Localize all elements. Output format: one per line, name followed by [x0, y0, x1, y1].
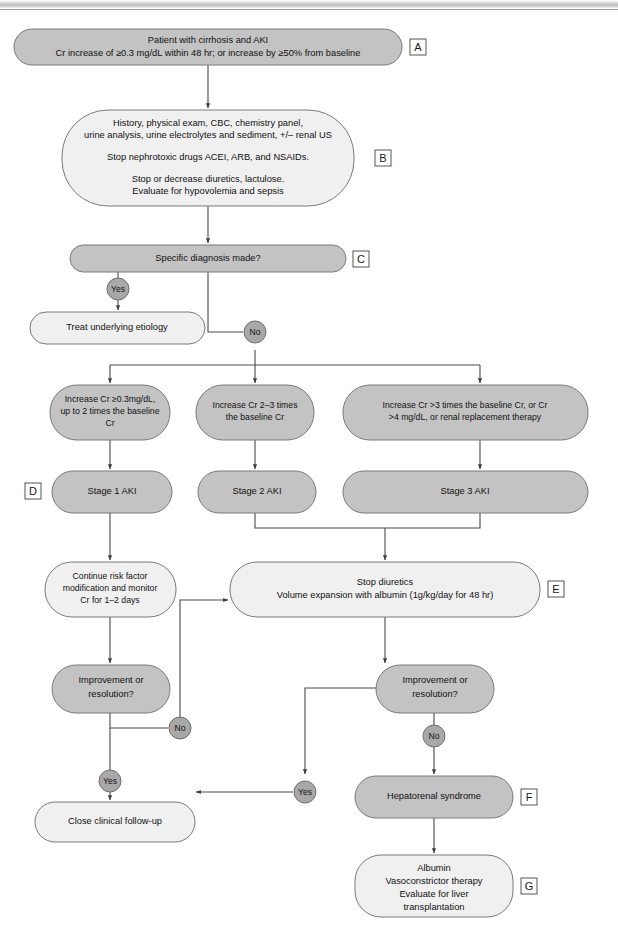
node-continue-risk-line-1: Continue risk factor — [73, 571, 148, 581]
node-close-followup-text: Close clinical follow-up — [68, 816, 162, 826]
node-stage-2-text: Stage 2 AKI — [232, 486, 281, 496]
decision-left-no-text: No — [175, 723, 186, 733]
decision-right-yes[interactable]: Yes — [294, 781, 316, 803]
label-e-text: E — [552, 583, 559, 595]
node-a[interactable]: Patient with cirrhosis and AKI Cr increa… — [14, 29, 402, 65]
node-treat-etiology[interactable]: Treat underlying etiology — [30, 312, 205, 344]
decision-left-yes[interactable]: Yes — [99, 770, 121, 792]
label-b: B — [375, 150, 391, 166]
node-b-line-2: urine analysis, urine electrolytes and s… — [84, 130, 332, 140]
label-a-text: A — [414, 41, 422, 53]
node-treatment-line-2: Vasoconstrictor therapy — [386, 876, 483, 886]
node-stage-3[interactable]: Stage 3 AKI — [343, 471, 588, 513]
node-criteria-2-line-1: Increase Cr 2–3 times — [213, 400, 299, 410]
label-d: D — [25, 483, 41, 499]
node-b-line-4: Stop or decrease diuretics, lactulose. — [132, 174, 284, 184]
label-f: F — [521, 789, 537, 805]
node-a-shape — [14, 29, 402, 65]
connector-c-to-no — [208, 272, 243, 332]
node-improvement-left-line-1: Improvement or — [78, 675, 143, 685]
node-b-line-3: Stop nephrotoxic drugs ACEI, ARB, and NS… — [107, 152, 309, 162]
label-a: A — [410, 39, 426, 55]
connector-no-to-bus — [110, 350, 255, 365]
node-c[interactable]: Specific diagnosis made? — [70, 245, 346, 272]
node-treat-etiology-text: Treat underlying etiology — [66, 322, 168, 332]
node-b-line-1: History, physical exam, CBC, chemistry p… — [113, 118, 303, 128]
decision-right-no-text: No — [429, 731, 440, 741]
label-g-text: G — [525, 880, 534, 892]
node-a-line-2: Cr increase of ≥0.3 mg/dL within 48 hr; … — [56, 48, 361, 58]
node-criteria-3[interactable]: Increase Cr >3 times the baseline Cr, or… — [343, 385, 588, 440]
node-continue-risk[interactable]: Continue risk factor modification and mo… — [45, 562, 176, 617]
flowchart-page: Patient with cirrhosis and AKI Cr increa… — [0, 0, 618, 937]
flowchart-canvas: Patient with cirrhosis and AKI Cr increa… — [0, 0, 618, 937]
node-criteria-2[interactable]: Increase Cr 2–3 times the baseline Cr — [196, 385, 314, 440]
node-criteria-1-line-2: up to 2 times the baseline — [60, 406, 159, 416]
node-continue-risk-line-2: modification and monitor — [63, 583, 158, 593]
node-hepatorenal-syndrome-text: Hepatorenal syndrome — [387, 791, 481, 801]
node-stop-diuretics-line-1: Stop diuretics — [357, 577, 414, 587]
connector-left-no-to-e — [180, 600, 228, 722]
decision-left-yes-text: Yes — [103, 776, 117, 786]
node-hepatorenal-syndrome[interactable]: Hepatorenal syndrome — [355, 776, 513, 818]
decision-c-yes[interactable]: Yes — [107, 278, 129, 300]
node-treatment-line-3: Evaluate for liver — [399, 889, 468, 899]
node-criteria-2-line-2: the baseline Cr — [226, 412, 285, 422]
node-b[interactable]: History, physical exam, CBC, chemistry p… — [62, 110, 354, 206]
label-f-text: F — [526, 791, 533, 803]
decision-c-no-text: No — [250, 327, 261, 337]
node-criteria-1[interactable]: Increase Cr ≥0.3mg/dL, up to 2 times the… — [50, 385, 170, 440]
decision-right-no[interactable]: No — [423, 725, 445, 747]
label-c-text: C — [357, 253, 365, 265]
connector-improve-left-to-no — [110, 713, 168, 728]
node-improvement-right-line-2: resolution? — [412, 689, 457, 699]
node-criteria-3-line-1: Increase Cr >3 times the baseline Cr, or… — [383, 400, 548, 410]
node-improvement-left-line-2: resolution? — [88, 689, 133, 699]
decision-c-no[interactable]: No — [244, 321, 266, 343]
node-continue-risk-line-3: Cr for 1–2 days — [80, 595, 140, 605]
node-a-line-1: Patient with cirrhosis and AKI — [148, 35, 268, 45]
decision-left-no[interactable]: No — [169, 717, 191, 739]
connector-improve-right-to-yes — [305, 688, 381, 774]
label-d-text: D — [29, 485, 37, 497]
node-improvement-left[interactable]: Improvement or resolution? — [52, 665, 170, 713]
node-b-line-5: Evaluate for hypovolemia and sepsis — [132, 186, 284, 196]
connector-stage3-merge — [385, 513, 480, 528]
node-treatment-line-4: transplantation — [404, 902, 465, 912]
node-c-line-1: Specific diagnosis made? — [155, 253, 260, 263]
label-e: E — [548, 581, 564, 597]
node-stage-2[interactable]: Stage 2 AKI — [198, 471, 316, 513]
node-close-followup[interactable]: Close clinical follow-up — [35, 802, 195, 842]
decision-right-yes-text: Yes — [298, 787, 312, 797]
node-stage-3-text: Stage 3 AKI — [440, 486, 489, 496]
node-stop-diuretics-line-2: Volume expansion with albumin (1g/kg/day… — [277, 590, 494, 600]
label-g: G — [521, 878, 537, 894]
node-treatment[interactable]: Albumin Vasoconstrictor therapy Evaluate… — [355, 855, 513, 917]
node-treatment-line-1: Albumin — [417, 863, 451, 873]
label-b-text: B — [379, 152, 386, 164]
decision-c-yes-text: Yes — [111, 284, 125, 294]
node-criteria-1-line-3: Cr — [105, 418, 114, 428]
connector-stage2-merge — [255, 513, 385, 528]
node-criteria-3-line-2: >4 mg/dL, or renal replacement therapy — [389, 412, 542, 422]
node-improvement-right[interactable]: Improvement or resolution? — [376, 665, 494, 713]
node-stage-1-text: Stage 1 AKI — [87, 486, 136, 496]
node-stop-diuretics[interactable]: Stop diuretics Volume expansion with alb… — [230, 562, 540, 617]
label-c: C — [353, 251, 369, 267]
node-stage-1[interactable]: Stage 1 AKI — [52, 471, 172, 513]
node-criteria-1-line-1: Increase Cr ≥0.3mg/dL, — [65, 394, 156, 404]
node-improvement-right-line-1: Improvement or — [402, 675, 467, 685]
